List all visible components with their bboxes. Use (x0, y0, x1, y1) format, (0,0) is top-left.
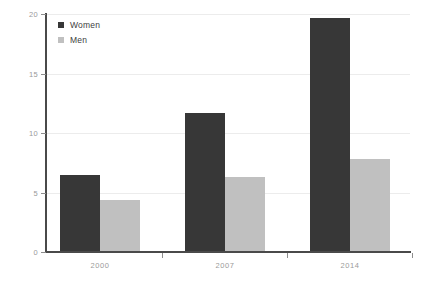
plot-area (46, 14, 410, 252)
x-axis-tick-label-2000: 2000 (90, 261, 109, 270)
legend-item-men[interactable]: Men (58, 33, 100, 46)
y-axis-tick-label: 0 (4, 248, 38, 257)
legend-item-women[interactable]: Women (58, 18, 100, 31)
y-tick-mark-20 (41, 14, 46, 15)
y-tick-mark-0 (41, 252, 46, 253)
gridline-y-15 (46, 74, 410, 75)
x-tick-mark-2000 (162, 253, 163, 258)
bar-men-2014 (350, 159, 390, 252)
legend-swatch-icon-men (58, 37, 64, 43)
gridline-y-10 (46, 133, 410, 134)
x-axis-tick-label-2007: 2007 (215, 261, 234, 270)
bar-men-2000 (100, 200, 140, 252)
x-axis-tick-label-2014: 2014 (340, 261, 359, 270)
chart-legend: WomenMen (58, 18, 100, 48)
y-axis-tick-label: 5 (4, 188, 38, 197)
gridline-y-20 (46, 14, 410, 15)
bar-chart: 05101520 200020072014 WomenMen (0, 0, 427, 284)
y-tick-mark-10 (41, 133, 46, 134)
bar-women-2014 (310, 18, 350, 252)
y-axis-tick-label: 20 (4, 10, 38, 19)
y-axis-tick-label: 15 (4, 69, 38, 78)
y-axis-tick-label: 10 (4, 129, 38, 138)
legend-swatch-icon-women (58, 22, 64, 28)
bar-women-2000 (60, 175, 100, 252)
bar-men-2007 (225, 177, 265, 252)
x-tick-mark-2007 (287, 253, 288, 258)
legend-label: Women (70, 20, 100, 30)
y-tick-mark-15 (41, 74, 46, 75)
x-axis-line (45, 251, 411, 253)
legend-label: Men (70, 35, 87, 45)
x-tick-mark-2014 (412, 253, 413, 258)
y-tick-mark-5 (41, 193, 46, 194)
bar-women-2007 (185, 113, 225, 252)
